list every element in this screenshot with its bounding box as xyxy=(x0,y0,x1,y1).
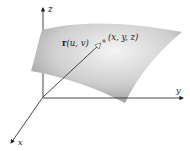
point-label: (x, y, z) xyxy=(108,32,138,42)
x-axis xyxy=(11,97,43,143)
vector-label-args: (u, v) xyxy=(66,38,88,48)
x-axis-label: x xyxy=(18,138,23,147)
surface-point xyxy=(102,39,106,43)
y-axis-label: y xyxy=(175,86,181,95)
z-axis-label: z xyxy=(47,4,53,14)
surface-diagram: z y x (x, y, z) r(u, v) xyxy=(0,0,190,151)
diagram-svg: z y x (x, y, z) r(u, v) xyxy=(0,0,190,151)
vector-label: r(u, v) xyxy=(62,38,89,48)
surface-patch xyxy=(31,23,182,103)
